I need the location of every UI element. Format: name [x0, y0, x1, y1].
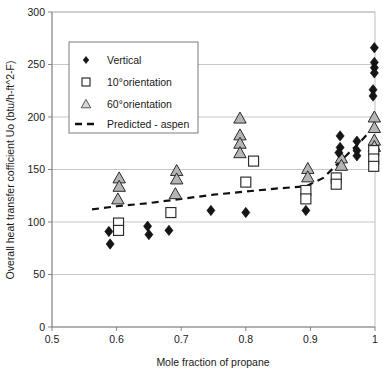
marker-vertical — [242, 207, 250, 217]
y-tick-label-100: 100 — [27, 216, 45, 228]
marker-60deg — [112, 193, 124, 204]
marker-vertical — [302, 205, 310, 215]
x-tick-label-0.5: 0.5 — [45, 333, 60, 345]
legend-swatch-10deg — [82, 78, 90, 86]
marker-10deg — [114, 225, 124, 235]
y-tick-label-250: 250 — [27, 58, 45, 70]
marker-vertical — [105, 226, 113, 236]
x-tick-label-0.7: 0.7 — [174, 333, 189, 345]
marker-60deg — [169, 188, 181, 199]
x-axis — [52, 327, 375, 331]
x-tick-labels: 0.50.60.70.80.91 — [45, 333, 378, 345]
marker-vertical — [207, 205, 215, 215]
y-tick-label-50: 50 — [33, 268, 45, 280]
marker-vertical — [144, 221, 152, 231]
chart-legend: Vertical10°orientation60°orientationPred… — [69, 42, 198, 133]
marker-vertical — [106, 239, 114, 249]
y-tick-labels: 050100150200250300 — [27, 6, 45, 333]
marker-vertical — [370, 43, 378, 53]
predicted-aspen-trendline — [92, 128, 374, 210]
marker-60deg — [368, 111, 380, 122]
x-axis-title: Mole fraction of propane — [156, 356, 269, 368]
marker-10deg — [166, 208, 176, 218]
chart-container: 050100150200250300 0.50.60.70.80.91 Over… — [0, 0, 383, 372]
marker-10deg — [249, 156, 259, 166]
x-tick-label-0.8: 0.8 — [238, 333, 253, 345]
marker-10deg — [331, 179, 341, 189]
marker-10deg — [241, 177, 251, 187]
marker-vertical — [165, 225, 173, 235]
legend-label-2: 60°orientation — [107, 98, 172, 110]
y-tick-label-0: 0 — [39, 321, 45, 333]
y-axis — [48, 12, 52, 327]
legend-label-1: 10°orientation — [107, 76, 172, 88]
x-tick-label-1: 1 — [372, 333, 378, 345]
marker-60deg — [368, 122, 380, 133]
x-tick-label-0.9: 0.9 — [303, 333, 318, 345]
marker-vertical — [353, 136, 361, 146]
y-tick-label-300: 300 — [27, 6, 45, 18]
legend-label-3: Predicted - aspen — [107, 118, 189, 130]
x-tick-label-0.6: 0.6 — [109, 333, 124, 345]
y-tick-label-200: 200 — [27, 111, 45, 123]
marker-10deg — [301, 194, 311, 204]
marker-vertical — [145, 229, 153, 239]
marker-10deg — [369, 161, 379, 171]
marker-vertical — [336, 131, 344, 141]
y-axis-title: Overall heat transfer cofficient Uo (btu… — [4, 61, 16, 280]
scatter-plot-svg: 050100150200250300 0.50.60.70.80.91 Over… — [0, 0, 383, 372]
legend-label-0: Vertical — [107, 54, 141, 66]
marker-60deg — [234, 112, 246, 123]
y-tick-label-150: 150 — [27, 163, 45, 175]
marker-vertical — [369, 91, 377, 101]
